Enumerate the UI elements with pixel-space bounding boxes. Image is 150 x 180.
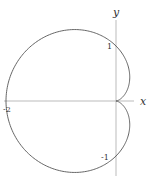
x-axis-label: x bbox=[140, 95, 147, 108]
y-axis-label: y bbox=[112, 6, 120, 19]
cardioid-plot: y x 1 -1 -2 bbox=[0, 0, 150, 180]
tick-label-neg1: -1 bbox=[101, 153, 109, 162]
tick-label-1: 1 bbox=[107, 42, 112, 51]
tick-label-neg2: -2 bbox=[3, 105, 11, 114]
